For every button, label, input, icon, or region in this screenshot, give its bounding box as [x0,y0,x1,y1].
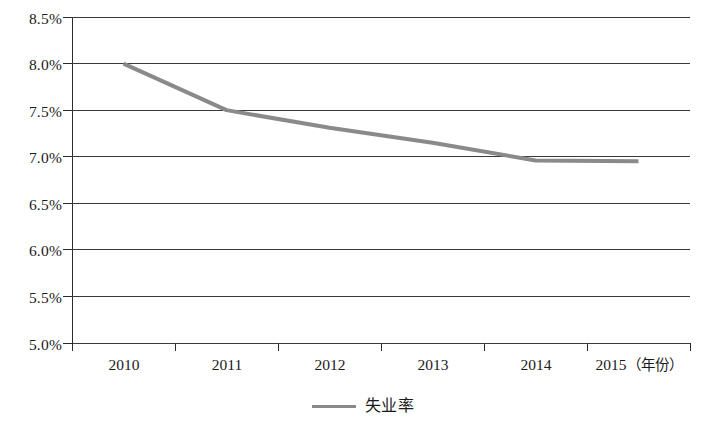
x-axis-unit-label: （年份） [627,357,683,373]
y-tick-label-7.5: 7.5% [4,104,62,120]
y-tick-label-5.5: 5.5% [4,290,62,306]
x-tick-mark-4 [484,343,485,351]
x-tick-label-2011: 2011 [212,357,242,373]
gridline-7.5 [72,110,690,111]
y-tick-label-6.0: 6.0% [4,243,62,259]
gridline-8.5 [72,17,690,18]
x-tick-label-2013: 2013 [418,357,449,373]
gridline-6.5 [72,203,690,204]
x-tick-label-2012: 2012 [315,357,346,373]
gridline-5.5 [72,296,690,297]
x-tick-mark-6 [690,343,691,351]
unemployment-rate-line-chart: 8.5% 8.0% 7.5% 7.0% 6.5% 6.0% 5.5% 5.0% … [0,0,726,427]
x-tick-label-2010: 2010 [109,357,140,373]
x-tick-mark-0 [72,343,73,351]
x-tick-label-2014: 2014 [521,357,552,373]
y-tick-label-8.5: 8.5% [4,11,62,27]
x-tick-label-2015: 2015（年份） [596,357,683,373]
x-tick-mark-3 [381,343,382,351]
x-tick-mark-2 [278,343,279,351]
gridline-7.0 [72,156,690,157]
x-tick-label-2015-year: 2015 [596,356,627,373]
legend-line-swatch-icon [312,405,356,408]
x-tick-mark-1 [175,343,176,351]
chart-legend: 失业率 [0,398,726,414]
gridline-6.0 [72,249,690,250]
y-tick-label-8.0: 8.0% [4,57,62,73]
y-tick-label-5.0: 5.0% [4,337,62,353]
y-tick-label-7.0: 7.0% [4,150,62,166]
y-axis-tick-labels: 8.5% 8.0% 7.5% 7.0% 6.5% 6.0% 5.5% 5.0% [0,0,62,427]
plot-area [72,17,690,343]
gridline-8.0 [72,63,690,64]
legend-label-unemployment-rate: 失业率 [365,398,415,414]
x-tick-mark-5 [587,343,588,351]
y-tick-label-6.5: 6.5% [4,197,62,213]
